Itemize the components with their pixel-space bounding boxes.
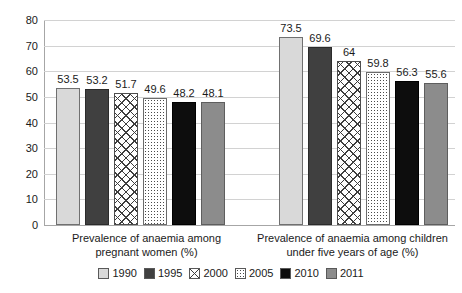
category-label-2: Prevalence of anaemia among childrenunde…: [250, 231, 455, 259]
legend-item-2000[interactable]: 2000: [189, 268, 227, 279]
legend-label: 1990: [112, 268, 136, 279]
y-tick-label: 10: [4, 194, 38, 205]
legend-label: 2005: [249, 268, 273, 279]
bar-value-label: 64: [332, 47, 366, 58]
y-tick-label: 70: [4, 41, 38, 52]
legend-swatch-icon: [189, 268, 200, 279]
bar-1990-group2: [279, 37, 303, 225]
category-label-line: under five years of age (%): [250, 245, 455, 259]
legend-label: 1995: [158, 268, 182, 279]
bar-2010-group1: [172, 102, 196, 226]
bar-value-label: 69.6: [303, 33, 337, 44]
category-label-line: Prevalence of anaemia among children: [250, 231, 455, 245]
bar-1995-group1: [85, 89, 109, 225]
legend-item-1995[interactable]: 1995: [144, 268, 182, 279]
legend-swatch-icon: [326, 268, 337, 279]
legend-label: 2010: [294, 268, 318, 279]
legend-item-2010[interactable]: 2010: [280, 268, 318, 279]
y-tick-label: 60: [4, 66, 38, 77]
legend-item-2011[interactable]: 2011: [326, 268, 364, 279]
bar-2000-group2: [337, 61, 361, 225]
bar-2011-group1: [201, 102, 225, 225]
plot-area: 53.573.553.269.651.76449.659.848.256.348…: [44, 20, 455, 225]
bar-2005-group2: [366, 72, 390, 225]
legend-swatch-icon: [280, 268, 291, 279]
y-tick-label: 80: [4, 15, 38, 26]
bar-1990-group1: [56, 88, 80, 225]
y-axis-tick-labels: 01020304050607080: [0, 20, 38, 225]
legend-label: 2000: [203, 268, 227, 279]
bar-chart: 01020304050607080 53.573.553.269.651.764…: [0, 0, 462, 293]
y-tick-label: 40: [4, 118, 38, 129]
legend-label: 2011: [340, 268, 364, 279]
x-axis-category-labels: Prevalence of anaemia amongpregnant wome…: [44, 231, 455, 261]
bar-2000-group1: [114, 93, 138, 225]
y-tick-label: 0: [4, 220, 38, 231]
legend-item-1990[interactable]: 1990: [98, 268, 136, 279]
bar-value-label: 48.1: [196, 88, 230, 99]
category-label-1: Prevalence of anaemia amongpregnant wome…: [44, 231, 249, 259]
category-label-line: pregnant women (%): [44, 245, 249, 259]
legend-item-2005[interactable]: 2005: [235, 268, 273, 279]
category-label-line: Prevalence of anaemia among: [44, 231, 249, 245]
bars-layer: 53.573.553.269.651.76449.659.848.256.348…: [44, 20, 455, 225]
bar-1995-group2: [308, 47, 332, 225]
bar-2011-group2: [424, 83, 448, 225]
gridline-0: [44, 225, 455, 226]
y-tick-label: 50: [4, 92, 38, 103]
legend-swatch-icon: [144, 268, 155, 279]
legend-swatch-icon: [98, 268, 109, 279]
bar-2005-group1: [143, 98, 167, 225]
y-tick-label: 20: [4, 169, 38, 180]
y-tick-label: 30: [4, 143, 38, 154]
bar-2010-group2: [395, 81, 419, 225]
legend-swatch-icon: [235, 268, 246, 279]
legend: 199019952000200520102011: [0, 268, 462, 279]
bar-value-label: 55.6: [419, 69, 453, 80]
